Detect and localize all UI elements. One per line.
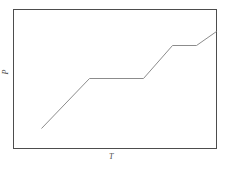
temperature-axis-label: T [109, 153, 113, 161]
figure-background [0, 0, 229, 172]
pressure-axis-label: P [2, 70, 10, 75]
plot-canvas [0, 0, 229, 172]
figure-panel: P T [0, 0, 229, 172]
